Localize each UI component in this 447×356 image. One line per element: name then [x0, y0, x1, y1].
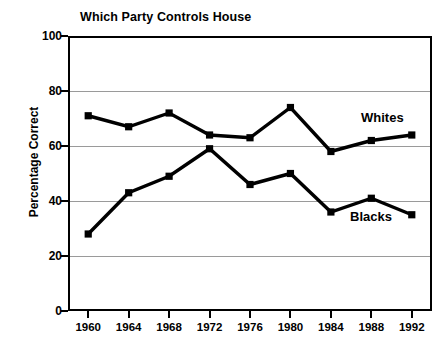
- series-label-blacks: Blacks: [350, 209, 392, 224]
- x-tick-mark: [370, 311, 372, 318]
- gridline: [70, 146, 430, 147]
- x-tick-mark: [289, 311, 291, 318]
- x-tick-label: 1988: [348, 322, 394, 334]
- y-axis-title: Percentage Correct: [27, 82, 41, 242]
- y-tick-mark: [61, 310, 68, 312]
- x-tick-label: 1968: [146, 322, 192, 334]
- y-tick-mark: [61, 35, 68, 37]
- y-tick-label: 100: [22, 30, 62, 42]
- y-tick-mark: [61, 255, 68, 257]
- x-tick-label: 1972: [187, 322, 233, 334]
- x-tick-label: 1980: [267, 322, 313, 334]
- plot-area: [68, 36, 432, 311]
- x-tick-mark: [249, 311, 251, 318]
- y-tick-label: 20: [22, 250, 62, 262]
- gridline: [70, 201, 430, 202]
- x-tick-mark: [87, 311, 89, 318]
- x-tick-label: 1984: [308, 322, 354, 334]
- y-tick-mark: [61, 200, 68, 202]
- chart-title: Which Party Controls House: [80, 10, 251, 24]
- chart-container: Which Party Controls House Percentage Co…: [0, 0, 447, 356]
- x-tick-mark: [168, 311, 170, 318]
- x-tick-label: 1992: [389, 322, 435, 334]
- y-tick-mark: [61, 90, 68, 92]
- x-tick-mark: [128, 311, 130, 318]
- series-label-whites: Whites: [361, 110, 404, 125]
- x-tick-mark: [209, 311, 211, 318]
- x-tick-mark: [330, 311, 332, 318]
- x-tick-label: 1976: [227, 322, 273, 334]
- y-tick-mark: [61, 145, 68, 147]
- y-tick-label: 40: [22, 195, 62, 207]
- gridline: [70, 256, 430, 257]
- x-tick-label: 1960: [65, 322, 111, 334]
- y-tick-label: 0: [22, 305, 62, 317]
- x-tick-mark: [411, 311, 413, 318]
- gridline: [70, 91, 430, 92]
- y-tick-label: 80: [22, 85, 62, 97]
- y-tick-label: 60: [22, 140, 62, 152]
- x-tick-label: 1964: [106, 322, 152, 334]
